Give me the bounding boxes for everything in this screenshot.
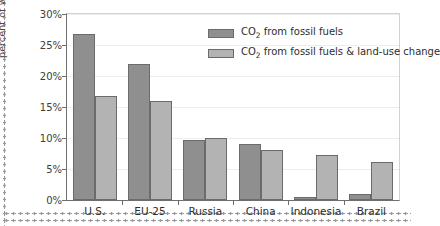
- y-tick-label: 10%: [28, 133, 62, 144]
- bar-group: [73, 14, 117, 200]
- bar: [150, 101, 172, 200]
- x-tick-label: U.S.: [84, 205, 105, 217]
- bar: [95, 96, 117, 200]
- legend-label: CO2 from fossil fuels & land-use change: [241, 46, 440, 60]
- bar: [294, 197, 316, 200]
- y-tick-label: 15%: [28, 102, 62, 113]
- legend-swatch: [208, 49, 234, 58]
- bar: [205, 138, 227, 200]
- x-tick-mark: [122, 201, 123, 205]
- bar: [261, 150, 283, 200]
- x-tick-label: Indonesia: [291, 205, 342, 217]
- legend-label: CO2 from fossil fuels: [241, 26, 343, 40]
- y-tick-label: 20%: [28, 71, 62, 82]
- bar: [349, 194, 371, 200]
- y-tick-label: 30%: [28, 9, 62, 20]
- legend-item: CO2 from fossil fuels: [208, 26, 440, 40]
- x-tick-label: EU-25: [134, 205, 165, 217]
- bar: [183, 140, 205, 200]
- bar: [316, 155, 338, 200]
- y-tick-label: 25%: [28, 40, 62, 51]
- x-tick-mark: [233, 201, 234, 205]
- chart-legend: CO2 from fossil fuelsCO2 from fossil fue…: [208, 26, 440, 66]
- x-tick-label: China: [246, 205, 276, 217]
- bar: [128, 64, 150, 200]
- bar: [239, 144, 261, 200]
- x-tick-mark: [178, 201, 179, 205]
- legend-swatch: [208, 29, 234, 38]
- dotted-border-bottom: [3, 219, 411, 222]
- x-tick-mark: [288, 201, 289, 205]
- y-tick-label: 5%: [28, 164, 62, 175]
- bar-group: [128, 14, 172, 200]
- legend-item: CO2 from fossil fuels & land-use change: [208, 46, 440, 60]
- bar: [371, 162, 393, 200]
- x-tick-label: Brazil: [357, 205, 386, 217]
- y-axis-ticks: 0%5%10%15%20%25%30%: [0, 0, 62, 226]
- bar: [73, 34, 95, 200]
- x-tick-label: Russia: [188, 205, 222, 217]
- y-tick-label: 0%: [28, 195, 62, 206]
- x-tick-mark: [344, 201, 345, 205]
